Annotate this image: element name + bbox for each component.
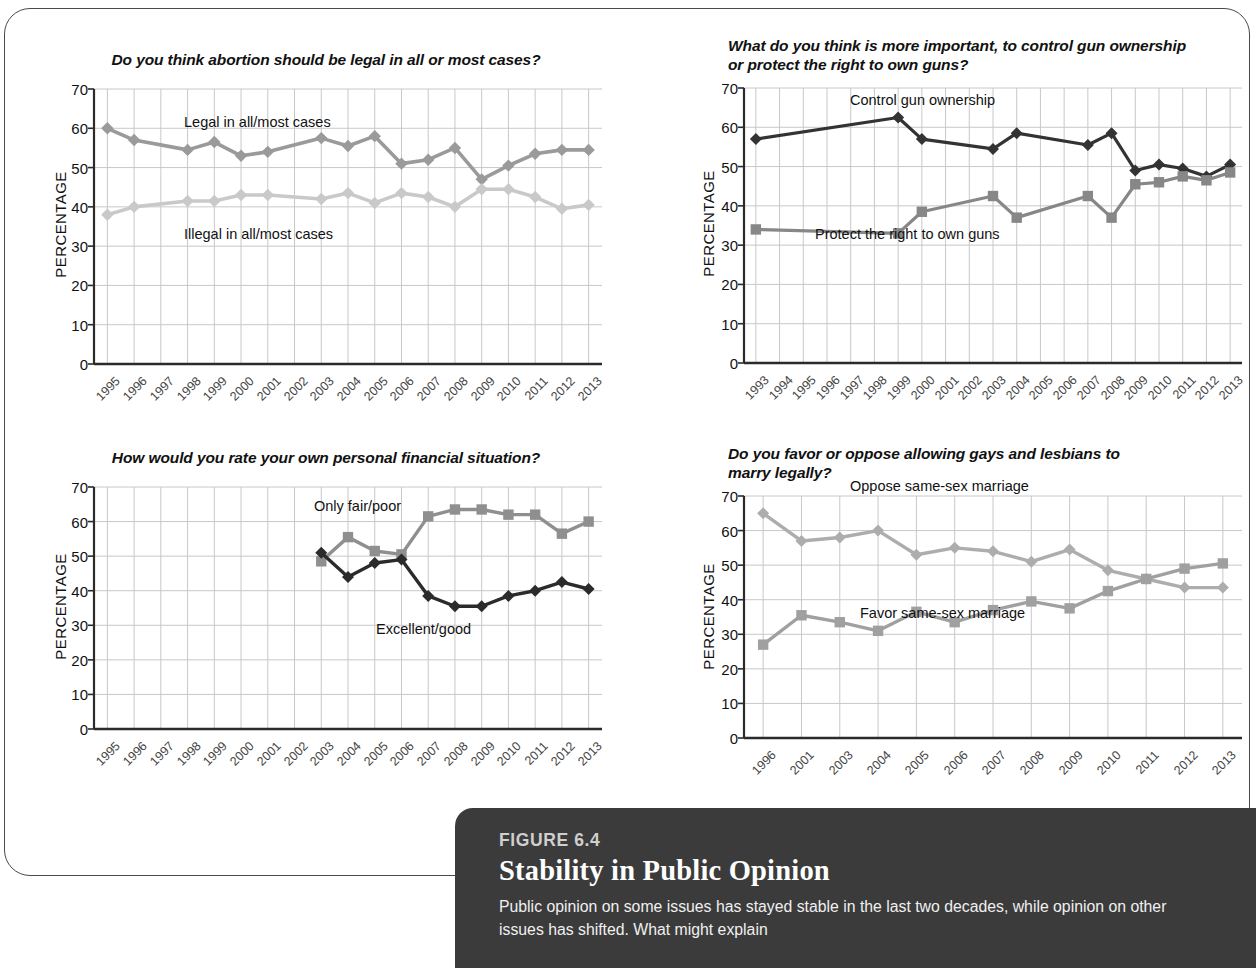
x-tick-label: 2003 xyxy=(815,748,856,789)
y-tick-label: 0 xyxy=(704,355,738,372)
figure-title: Stability in Public Opinion xyxy=(499,855,1226,887)
chart-title-guns: What do you think is more important, to … xyxy=(728,36,1198,75)
y-tick-label: 70 xyxy=(54,81,88,98)
y-tick-label: 60 xyxy=(54,513,88,530)
x-tick-label: 2009 xyxy=(1044,748,1085,789)
y-tick-label: 70 xyxy=(704,488,738,505)
y-tick-label: 50 xyxy=(54,159,88,176)
y-tick-label: 30 xyxy=(54,238,88,255)
y-tick-label: 40 xyxy=(54,582,88,599)
y-tick-label: 50 xyxy=(54,548,88,565)
chart-svg-finances xyxy=(94,487,602,729)
y-tick-label: 30 xyxy=(54,617,88,634)
y-tick-label: 10 xyxy=(54,686,88,703)
chart-panel-abortion: Do you think abortion should be legal in… xyxy=(26,44,626,394)
x-tick-label: 2010 xyxy=(1083,748,1124,789)
y-axis-ticks-abortion: 706050403020100 xyxy=(54,89,88,364)
y-axis-ticks-guns: 706050403020100 xyxy=(704,88,738,363)
x-tick-label: 2007 xyxy=(968,748,1009,789)
y-tick-label: 0 xyxy=(54,721,88,738)
y-tick-label: 0 xyxy=(54,356,88,373)
y-tick-label: 60 xyxy=(704,522,738,539)
plot-area-finances xyxy=(94,487,602,729)
x-tick-label: 2001 xyxy=(776,748,817,789)
y-tick-label: 20 xyxy=(704,660,738,677)
figure-caption-text: Public opinion on some issues has stayed… xyxy=(499,896,1179,942)
y-tick-label: 40 xyxy=(704,197,738,214)
x-tick-label: 2012 xyxy=(1159,748,1200,789)
plot-area-abortion xyxy=(94,89,602,364)
x-axis-ticks-abortion: 1995199619971998199920002001200220032004… xyxy=(94,368,602,428)
chart-title-finances: How would you rate your own personal fin… xyxy=(26,448,626,467)
y-tick-label: 30 xyxy=(704,237,738,254)
y-tick-label: 10 xyxy=(704,315,738,332)
x-tick-label: 2008 xyxy=(1006,748,1047,789)
series-label-excellent-good: Excellent/good xyxy=(376,621,471,637)
chart-svg-abortion xyxy=(94,89,602,364)
y-tick-label: 10 xyxy=(704,695,738,712)
chart-title-marriage: Do you favor or oppose allowing gays and… xyxy=(728,444,1158,483)
x-axis-ticks-marriage: 1996200120032004200520062007200820092010… xyxy=(744,742,1242,802)
y-tick-label: 40 xyxy=(54,198,88,215)
x-tick-label: 2005 xyxy=(891,748,932,789)
y-tick-label: 0 xyxy=(704,730,738,747)
x-tick-label: 2013 xyxy=(1198,748,1239,789)
y-tick-label: 20 xyxy=(54,651,88,668)
chart-panel-guns: What do you think is more important, to … xyxy=(660,30,1250,394)
y-tick-label: 20 xyxy=(54,277,88,294)
y-tick-label: 50 xyxy=(704,557,738,574)
y-axis-ticks-finances: 706050403020100 xyxy=(54,487,88,729)
series-label-protect-guns: Protect the right to own guns xyxy=(815,226,1000,242)
series-label-favor-marriage: Favor same-sex marriage xyxy=(860,605,1025,621)
y-tick-label: 20 xyxy=(704,276,738,293)
x-tick-label: 2011 xyxy=(1121,748,1162,789)
chart-panel-finances: How would you rate your own personal fin… xyxy=(26,442,626,792)
series-label-illegal: Illegal in all/most cases xyxy=(184,226,333,242)
series-label-legal: Legal in all/most cases xyxy=(184,114,331,130)
figure-caption-box: FIGURE 6.4 Stability in Public Opinion P… xyxy=(455,808,1256,968)
y-tick-label: 10 xyxy=(54,316,88,333)
series-label-control-guns: Control gun ownership xyxy=(850,92,995,108)
y-tick-label: 60 xyxy=(54,120,88,137)
series-label-oppose-marriage: Oppose same-sex marriage xyxy=(850,478,1029,494)
x-tick-label: 2004 xyxy=(853,748,894,789)
y-tick-label: 60 xyxy=(704,119,738,136)
figure-number: FIGURE 6.4 xyxy=(499,830,1226,851)
x-tick-label: 2006 xyxy=(930,748,971,789)
series-label-fair-poor: Only fair/poor xyxy=(314,498,401,514)
y-tick-label: 70 xyxy=(704,80,738,97)
x-tick-label: 1996 xyxy=(738,748,779,789)
chart-title-abortion: Do you think abortion should be legal in… xyxy=(26,50,626,69)
x-axis-ticks-guns: 1993199419951996199719981999200020012002… xyxy=(744,367,1242,427)
chart-panel-marriage: Do you favor or oppose allowing gays and… xyxy=(660,440,1250,790)
y-tick-label: 40 xyxy=(704,591,738,608)
y-tick-label: 70 xyxy=(54,479,88,496)
y-axis-ticks-marriage: 706050403020100 xyxy=(704,496,738,738)
y-tick-label: 50 xyxy=(704,158,738,175)
y-tick-label: 30 xyxy=(704,626,738,643)
x-axis-ticks-finances: 1995199619971998199920002001200220032004… xyxy=(94,733,602,793)
